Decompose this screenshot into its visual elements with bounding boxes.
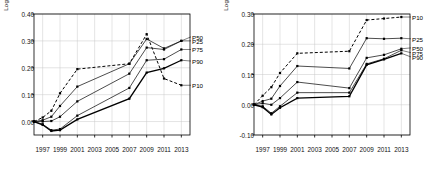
data-point-marker bbox=[270, 98, 272, 100]
x-tick-label: 2013 bbox=[394, 146, 408, 153]
data-point-marker bbox=[128, 63, 130, 65]
data-point-marker bbox=[146, 33, 148, 35]
data-point-marker bbox=[296, 92, 298, 94]
x-tick-label: 1999 bbox=[273, 146, 287, 153]
x-tick-label: 2011 bbox=[377, 146, 391, 153]
data-point-marker bbox=[50, 130, 52, 132]
data-point-marker bbox=[348, 67, 350, 69]
x-tick-label: 2005 bbox=[105, 146, 119, 153]
series-label-leader bbox=[401, 53, 411, 57]
series-label-leader bbox=[181, 37, 191, 41]
data-point-marker bbox=[383, 17, 385, 19]
data-point-marker bbox=[146, 72, 148, 74]
data-point-marker bbox=[348, 87, 350, 89]
data-point-marker bbox=[163, 77, 165, 79]
data-point-marker bbox=[296, 81, 298, 83]
data-point-marker bbox=[128, 98, 130, 100]
chart-panel-right: Log (normalized to 0 in 1996) -0.100.000… bbox=[220, 0, 440, 174]
data-point-marker bbox=[279, 97, 281, 99]
data-point-marker bbox=[76, 115, 78, 117]
data-point-marker bbox=[279, 107, 281, 109]
x-axis-ticks-left: 199719992001200320052007200920112013 bbox=[0, 140, 220, 156]
data-point-marker bbox=[163, 58, 165, 60]
data-point-marker bbox=[348, 95, 350, 97]
data-point-marker bbox=[76, 68, 78, 70]
data-point-marker bbox=[163, 48, 165, 50]
data-point-marker bbox=[42, 116, 44, 118]
x-axis-ticks-right: 199719992001200320052007200920112013 bbox=[220, 140, 440, 156]
data-point-marker bbox=[59, 92, 61, 94]
data-point-marker bbox=[50, 110, 52, 112]
data-point-marker bbox=[50, 116, 52, 118]
x-tick-label: 1997 bbox=[256, 146, 270, 153]
series-label-p25: P25 bbox=[412, 35, 423, 42]
data-point-marker bbox=[270, 86, 272, 88]
x-tick-label: 1999 bbox=[53, 146, 67, 153]
data-point-marker bbox=[76, 118, 78, 120]
x-tick-label: 2001 bbox=[70, 146, 84, 153]
data-point-marker bbox=[76, 86, 78, 88]
x-tick-label: 2009 bbox=[360, 146, 374, 153]
data-point-marker bbox=[348, 92, 350, 94]
data-point-marker bbox=[279, 72, 281, 74]
data-point-marker bbox=[296, 65, 298, 67]
x-tick-label: 2009 bbox=[140, 146, 154, 153]
x-tick-label: 2003 bbox=[88, 146, 102, 153]
data-point-marker bbox=[76, 100, 78, 102]
series-line-p90 bbox=[34, 60, 181, 131]
data-point-marker bbox=[262, 106, 264, 108]
series-line-p90 bbox=[254, 53, 401, 114]
data-point-marker bbox=[348, 50, 350, 52]
chart-panel-left: Log (normalized to 0 in 1996) 0.000.100.… bbox=[0, 0, 220, 174]
data-point-marker bbox=[33, 120, 35, 122]
series-label-p10: P10 bbox=[412, 14, 423, 21]
data-point-marker bbox=[59, 116, 61, 118]
data-point-marker bbox=[383, 38, 385, 40]
data-point-marker bbox=[146, 59, 148, 61]
x-tick-label: 2003 bbox=[308, 146, 322, 153]
data-point-marker bbox=[128, 87, 130, 89]
series-label-p50: P50 bbox=[192, 33, 203, 40]
x-tick-label: 2013 bbox=[174, 146, 188, 153]
data-point-marker bbox=[270, 104, 272, 106]
series-line-p75 bbox=[34, 49, 181, 130]
data-point-marker bbox=[59, 129, 61, 131]
data-point-marker bbox=[253, 104, 255, 106]
data-point-marker bbox=[383, 54, 385, 56]
data-point-marker bbox=[296, 97, 298, 99]
series-line-p50 bbox=[254, 49, 401, 105]
data-point-marker bbox=[180, 40, 182, 42]
series-label-p10: P10 bbox=[192, 82, 203, 89]
figure-two-panel-line-charts: Log (normalized to 0 in 1996) 0.000.100.… bbox=[0, 0, 441, 174]
data-point-marker bbox=[296, 52, 298, 54]
series-label-p90: P90 bbox=[192, 58, 203, 65]
series-line-p50 bbox=[34, 41, 181, 122]
data-point-marker bbox=[128, 73, 130, 75]
data-point-marker bbox=[146, 38, 148, 40]
series-label-leader bbox=[401, 50, 411, 52]
series-label-leader bbox=[401, 38, 411, 39]
data-point-marker bbox=[163, 67, 165, 69]
data-point-marker bbox=[400, 52, 402, 54]
x-tick-label: 2007 bbox=[342, 146, 356, 153]
data-point-marker bbox=[42, 120, 44, 122]
series-label-leader bbox=[181, 60, 191, 61]
series-label-p90: P90 bbox=[412, 53, 423, 60]
data-point-marker bbox=[262, 95, 264, 97]
data-point-marker bbox=[366, 64, 368, 66]
series-label-p75: P75 bbox=[192, 46, 203, 53]
data-point-marker bbox=[383, 58, 385, 60]
series-line-p10 bbox=[34, 34, 181, 121]
data-point-marker bbox=[262, 102, 264, 104]
series-label-leader bbox=[401, 48, 411, 49]
data-point-marker bbox=[366, 37, 368, 39]
data-point-marker bbox=[59, 105, 61, 107]
series-line-p25 bbox=[254, 38, 401, 105]
series-line-p25 bbox=[34, 39, 181, 122]
x-tick-label: 2001 bbox=[290, 146, 304, 153]
data-point-marker bbox=[262, 100, 264, 102]
x-tick-label: 2005 bbox=[325, 146, 339, 153]
data-point-marker bbox=[366, 19, 368, 21]
data-point-marker bbox=[146, 47, 148, 49]
x-tick-label: 2007 bbox=[122, 146, 136, 153]
